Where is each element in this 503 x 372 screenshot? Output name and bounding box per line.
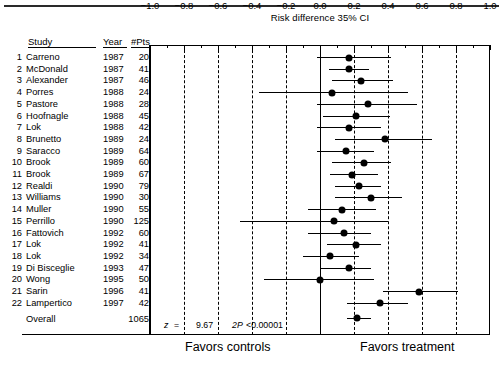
table-row: 6Hoofnagle198845 <box>0 110 150 122</box>
table-row: 3Alexander198746 <box>0 74 150 86</box>
row-year: 1990 <box>103 180 124 192</box>
row-index: 18 <box>6 250 22 262</box>
overall-point-estimate <box>354 315 361 322</box>
table-row: 18Lok199234 <box>0 250 150 262</box>
stat-p-value: <0.00001 <box>246 320 283 330</box>
row-index: 6 <box>6 110 22 122</box>
row-year: 1997 <box>103 297 124 309</box>
x-axis-tick-label: −0.4 <box>243 0 262 11</box>
row-index: 15 <box>6 215 22 227</box>
column-header-year: Year <box>103 36 127 48</box>
row-index: 3 <box>6 74 22 86</box>
row-study-name: Williams <box>26 191 61 203</box>
row-pts: 28 <box>125 98 149 110</box>
row-year: 1993 <box>103 262 124 274</box>
row-year: 1990 <box>103 215 124 227</box>
row-year: 1988 <box>103 121 124 133</box>
table-row: 14Muller199055 <box>0 203 150 215</box>
row-study-name: Hoofnagle <box>26 110 68 122</box>
stat-z-symbol: z <box>164 320 168 330</box>
row-study-name: Wong <box>26 273 50 285</box>
gridline <box>286 45 287 335</box>
row-study-name: Lampertico <box>26 297 72 309</box>
study-point-estimate <box>345 66 352 73</box>
study-point-estimate <box>340 230 347 237</box>
table-row: 1Carreno198720 <box>0 51 150 63</box>
table-row: 22Lampertico199742 <box>0 297 150 309</box>
x-axis-tick-label: 0.0 <box>313 0 326 11</box>
table-row: 17Lok199241 <box>0 238 150 250</box>
row-study-name: Pastore <box>26 98 58 110</box>
row-pts: 46 <box>125 74 149 86</box>
row-pts: 60 <box>125 156 149 168</box>
stat-p-label: 2P <box>232 320 243 330</box>
study-point-estimate <box>330 218 337 225</box>
row-study-name: Carreno <box>26 51 60 63</box>
row-study-name: Muller <box>26 203 51 215</box>
row-index: 5 <box>6 98 22 110</box>
row-year: 1988 <box>103 98 124 110</box>
chart-title: Risk difference 35% CI <box>150 12 490 23</box>
row-year: 1989 <box>103 133 124 145</box>
row-year: 1992 <box>103 250 124 262</box>
table-row: 12Realdi199079 <box>0 180 150 192</box>
row-pts: 30 <box>125 191 149 203</box>
table-row: 16Fattovich199260 <box>0 227 150 239</box>
stat-z-value: 9.67 <box>196 320 213 330</box>
row-year: 1996 <box>103 285 124 297</box>
row-pts: 60 <box>125 227 149 239</box>
table-row: 11Brook198967 <box>0 168 150 180</box>
gridline <box>252 45 253 335</box>
null-effect-line <box>320 45 321 335</box>
study-point-estimate <box>356 183 363 190</box>
x-axis-tick-label: −0.6 <box>209 0 228 11</box>
forest-plot-figure: Risk difference 35% CI −1.0−0.8−0.6−0.4−… <box>0 0 503 372</box>
study-ci-line <box>240 221 388 222</box>
table-row: 5Pastore198828 <box>0 98 150 110</box>
row-study-name: Lok <box>26 250 41 262</box>
table-row: 15Perrillo1990125 <box>0 215 150 227</box>
table-row: 9Saracco198964 <box>0 145 150 157</box>
x-axis-tick <box>490 45 491 50</box>
row-pts: 1065 <box>125 313 149 325</box>
row-pts: 55 <box>125 203 149 215</box>
study-point-estimate <box>368 194 375 201</box>
row-pts: 24 <box>125 133 149 145</box>
stat-z-label: z <box>164 320 168 330</box>
row-index: 10 <box>6 156 22 168</box>
study-point-estimate <box>345 54 352 61</box>
row-year: 1995 <box>103 273 124 285</box>
favors-controls-label: Favors controls <box>185 340 270 354</box>
column-header-study: Study <box>28 36 96 48</box>
table-row: 8Brunetto198924 <box>0 133 150 145</box>
row-pts: 42 <box>125 297 149 309</box>
row-study-name: Di Bisceglie <box>26 262 75 274</box>
row-index: 1 <box>6 51 22 63</box>
row-index: 9 <box>6 145 22 157</box>
row-index: 22 <box>6 297 22 309</box>
x-axis-tick-label: 1.0 <box>483 0 496 11</box>
row-study-name: McDonald <box>26 63 68 75</box>
study-point-estimate <box>327 253 334 260</box>
row-pts: 34 <box>125 250 149 262</box>
row-pts: 79 <box>125 180 149 192</box>
row-index: 4 <box>6 86 22 98</box>
x-axis-tick-label: −1.0 <box>141 0 160 11</box>
row-index: 14 <box>6 203 22 215</box>
row-year: 1989 <box>103 168 124 180</box>
row-pts: 41 <box>125 238 149 250</box>
study-point-estimate <box>415 288 422 295</box>
row-study-name: Saracco <box>26 145 60 157</box>
x-axis-tick-label: 0.2 <box>347 0 360 11</box>
x-axis-tick-label: −0.2 <box>277 0 296 11</box>
row-study-name: Lok <box>26 121 41 133</box>
row-pts: 67 <box>125 168 149 180</box>
table-row: 13Williams199030 <box>0 191 150 203</box>
row-pts: 50 <box>125 273 149 285</box>
row-study-name: Porres <box>26 86 53 98</box>
table-row: 19Di Bisceglie199347 <box>0 262 150 274</box>
x-axis-tick-label: 0.4 <box>381 0 394 11</box>
study-point-estimate <box>342 148 349 155</box>
gridline <box>218 45 219 335</box>
row-study-name: Perrillo <box>26 215 55 227</box>
